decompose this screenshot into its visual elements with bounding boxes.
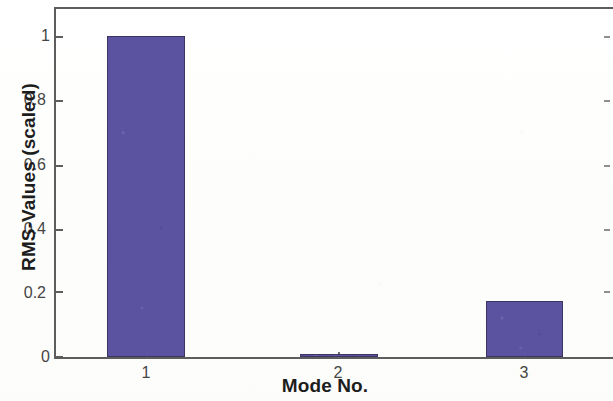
axis-top-spine (54, 7, 613, 9)
y-tick-label-0: 0 (6, 348, 50, 366)
y-tick-mark-0-4 (56, 229, 63, 231)
y-tick-mark-1 (56, 36, 63, 38)
y-tick-mark-right-0-6 (604, 165, 610, 167)
bar-mode-1 (107, 36, 185, 357)
y-tick-mark-right-0-8 (604, 100, 610, 102)
y-tick-mark-right-1 (604, 36, 610, 38)
x-tick-label-3: 3 (504, 364, 544, 382)
x-axis-label: Mode No. (245, 375, 405, 397)
y-tick-mark-right-0-2 (604, 291, 610, 293)
x-tick-label-1: 1 (126, 364, 166, 382)
y-tick-mark-right-0-4 (604, 229, 610, 231)
y-axis-label: RMS-Values (scaled) (18, 57, 40, 297)
bar-chart-figure: 1 0.8 0.6 0.4 0.2 0 1 2 3 RMS-Values (sc… (0, 0, 613, 401)
y-tick-mark-0-6 (56, 165, 63, 167)
y-tick-mark-0 (56, 356, 63, 358)
bar-mode-2 (300, 354, 378, 357)
y-tick-mark-0-2 (56, 291, 63, 293)
axis-left-spine (54, 7, 56, 359)
y-tick-mark-0-8 (56, 100, 63, 102)
axis-bottom-spine (54, 357, 613, 359)
y-tick-label-1: 1 (6, 27, 50, 45)
bar-mode-3 (486, 301, 563, 357)
